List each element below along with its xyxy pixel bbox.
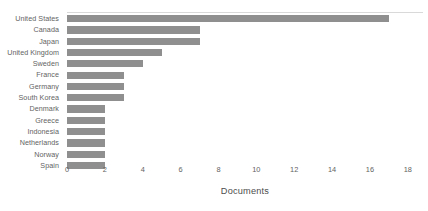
category-label: Greece (0, 115, 63, 126)
bar (67, 83, 124, 90)
x-tick-label: 14 (328, 165, 336, 174)
bar-row (67, 115, 423, 126)
x-tick-label: 10 (252, 165, 260, 174)
category-label: France (0, 69, 63, 80)
bar (67, 117, 105, 124)
bar (67, 38, 200, 45)
category-label: Spain (0, 160, 63, 171)
x-tick-label: 4 (141, 165, 145, 174)
bar-row (67, 103, 423, 114)
x-tick-label: 6 (179, 165, 183, 174)
category-label: Norway (0, 149, 63, 160)
bar (67, 72, 124, 79)
category-axis: United StatesCanadaJapanUnited KingdomSw… (0, 13, 63, 171)
x-tick-label: 12 (290, 165, 298, 174)
x-tick-label: 0 (65, 165, 69, 174)
bar (67, 94, 124, 101)
bar-row (67, 47, 423, 58)
bar (67, 139, 105, 146)
bars-container (67, 13, 423, 161)
bar (67, 60, 143, 67)
category-label: Japan (0, 36, 63, 47)
category-label: Sweden (0, 58, 63, 69)
bar-row (67, 69, 423, 80)
bar-row (67, 36, 423, 47)
bar (67, 105, 105, 112)
category-label: Denmark (0, 103, 63, 114)
bar-chart: United StatesCanadaJapanUnited KingdomSw… (0, 0, 428, 211)
bar (67, 128, 105, 135)
bar-row (67, 126, 423, 137)
bar (67, 26, 200, 33)
value-axis: 024681012141618 (67, 165, 423, 179)
x-tick-label: 18 (404, 165, 412, 174)
bar-row (67, 81, 423, 92)
bar (67, 49, 162, 56)
bar (67, 15, 389, 22)
bar-row (67, 58, 423, 69)
category-label: Germany (0, 81, 63, 92)
category-label: United Kingdom (0, 47, 63, 58)
bar-row (67, 149, 423, 160)
x-tick-label: 8 (216, 165, 220, 174)
category-label: Indonesia (0, 126, 63, 137)
bar (67, 151, 105, 158)
bar-row (67, 24, 423, 35)
bar-row (67, 137, 423, 148)
x-tick-label: 2 (103, 165, 107, 174)
x-axis-title: Documents (67, 186, 423, 196)
category-label: Canada (0, 24, 63, 35)
bar-row (67, 13, 423, 24)
bar-row (67, 92, 423, 103)
category-label: United States (0, 13, 63, 24)
category-label: Netherlands (0, 137, 63, 148)
plot-area: United StatesCanadaJapanUnited KingdomSw… (0, 0, 428, 170)
category-label: South Korea (0, 92, 63, 103)
x-tick-label: 16 (366, 165, 374, 174)
